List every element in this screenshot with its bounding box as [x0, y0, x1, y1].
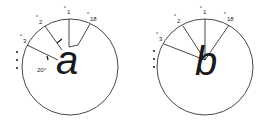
label-x3-sub: 3	[23, 38, 27, 44]
ellipsis-dot-1	[16, 51, 18, 53]
label-x18-sub: 18	[227, 16, 234, 22]
label-x3-sub: 3	[159, 36, 163, 42]
ellipsis-dot-3	[16, 67, 18, 69]
ellipsis-dot-1	[153, 50, 155, 52]
label-x18: x	[87, 10, 89, 15]
label-x18-sub: 18	[90, 16, 97, 22]
label-x2-sub: 2	[39, 19, 43, 25]
figure-right: b x 1 x 18 x 2 x 3	[153, 4, 253, 115]
label-x1-sub: 1	[67, 9, 71, 15]
label-x1: x	[64, 4, 66, 9]
ellipsis-dot-2	[16, 59, 18, 61]
letter-a: a	[56, 38, 78, 82]
diagram-canvas: a x 1 x 18 x 2 x 3 20° b x 1 x 18 x 2 x …	[0, 0, 264, 122]
letter-b: b	[195, 39, 217, 83]
label-x2-sub: 2	[177, 18, 181, 24]
label-x18: x	[224, 10, 226, 15]
angle-label: 20°	[37, 67, 47, 73]
ray-x18	[78, 24, 90, 45]
ellipsis-dot-2	[153, 58, 155, 60]
label-x1-sub: 1	[203, 9, 207, 15]
label-x1: x	[200, 4, 202, 9]
label-x2: x	[174, 12, 176, 17]
ellipsis-dot-3	[153, 66, 155, 68]
ray-x3	[27, 45, 58, 60]
label-x2: x	[36, 13, 38, 18]
label-x3: x	[20, 32, 22, 37]
label-x3: x	[156, 30, 158, 35]
figure-left: a x 1 x 18 x 2 x 3 20°	[16, 4, 118, 115]
angle-tick-2	[47, 56, 48, 60]
